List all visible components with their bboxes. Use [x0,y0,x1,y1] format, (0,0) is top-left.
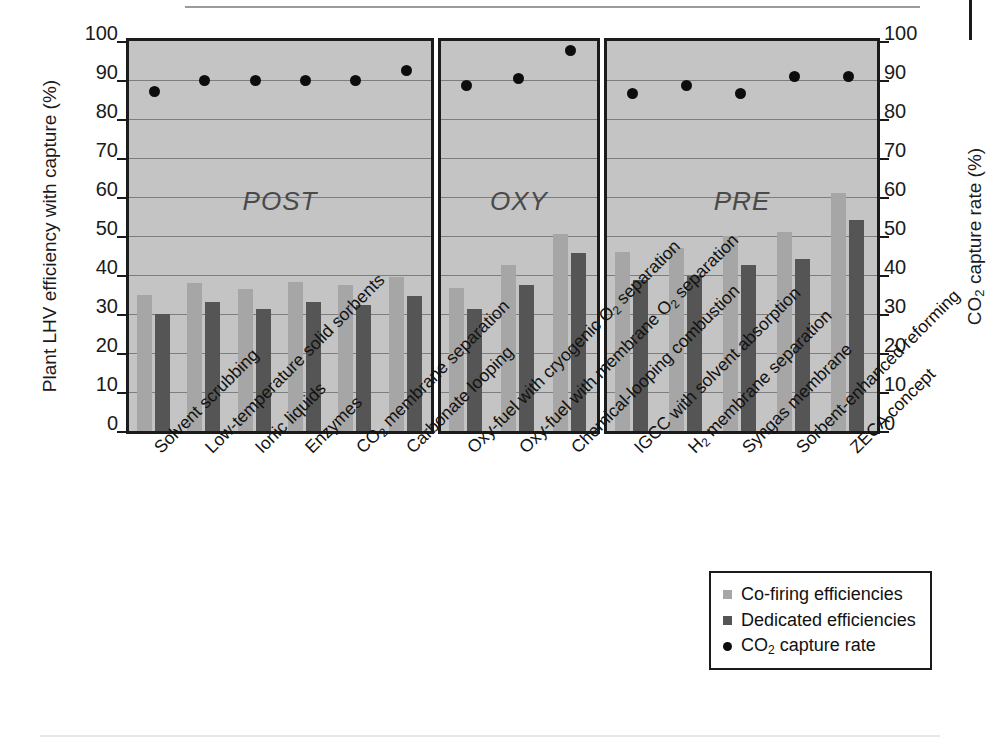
legend-item-label: Co-firing efficiencies [741,584,903,605]
capture-rate-dot[interactable] [461,80,472,91]
y-tick-label-l-60: 60 [72,179,118,199]
y-tickmark-l-20 [117,353,126,355]
y-tickmark-r-60 [880,197,889,199]
y-tickmark-r-10 [880,392,889,394]
legend-item-label: Dedicated efficiencies [741,610,916,631]
capture-rate-dot[interactable] [513,73,524,84]
bar-group[interactable] [333,41,383,431]
legend-item-label: CO2 capture rate [741,635,876,657]
bar-dedicated[interactable] [155,314,170,431]
legend-label-pre: CO [741,635,768,655]
capture-rate-dot[interactable] [250,75,261,86]
y-tick-label-r-50: 50 [884,218,930,238]
y-tick-label-r-60: 60 [884,179,930,199]
bar-dedicated[interactable] [633,280,648,431]
y-axis-right-title: CO2 capture rate (%) [964,37,987,437]
bar-cofiring[interactable] [137,295,152,432]
y-tickmark-l-30 [117,314,126,316]
y-tickmark-l-70 [117,158,126,160]
y-tick-label-l-20: 20 [72,335,118,355]
y-tickmark-r-40 [880,275,889,277]
y-tick-label-r-100: 100 [884,23,930,43]
y-tick-label-l-0: 0 [72,413,118,433]
legend-item-0[interactable]: Co-firing efficiencies [723,581,920,607]
y-axis-left-title: Plant LHV efficiency with capture (%) [39,36,61,436]
legend-label-sub: 2 [768,643,775,657]
y-tick-label-r-40: 40 [884,257,930,277]
y-axis-right-title-post: capture rate (%) [964,148,985,290]
y-axis-right-title-sub: 2 [972,289,987,296]
scan-artifact-top [185,6,920,8]
legend-square-icon [723,616,732,625]
y-tick-label-l-40: 40 [72,257,118,277]
y-tick-label-l-100: 100 [72,23,118,43]
legend-item-2[interactable]: CO2 capture rate [723,633,920,659]
capture-rate-dot[interactable] [681,80,692,91]
y-axis-right-title-pre: CO [964,297,985,326]
capture-rate-dot[interactable] [735,88,746,99]
y-tick-label-r-90: 90 [884,62,930,82]
legend: Co-firing efficienciesDedicated efficien… [709,571,932,670]
legend-square-icon [723,590,732,599]
scan-artifact-bottom [40,735,940,737]
capture-rate-dot[interactable] [565,45,576,56]
bar-group[interactable] [132,41,182,431]
y-tick-label-l-30: 30 [72,296,118,316]
y-tickmark-l-80 [117,119,126,121]
y-tick-label-l-70: 70 [72,140,118,160]
y-tickmark-l-0 [117,431,126,433]
capture-rate-dot[interactable] [149,86,160,97]
y-tickmark-r-70 [880,158,889,160]
capture-rate-dot[interactable] [350,75,361,86]
y-tickmark-r-100 [880,41,889,43]
y-tick-label-l-80: 80 [72,101,118,121]
y-tick-label-r-80: 80 [884,101,930,121]
panel-oxy: OXY [438,38,600,434]
y-tickmark-l-90 [117,80,126,82]
y-tickmark-r-90 [880,80,889,82]
y-tickmark-l-50 [117,236,126,238]
y-tickmark-r-80 [880,119,889,121]
capture-rate-dot[interactable] [789,71,800,82]
capture-rate-dot[interactable] [300,75,311,86]
scan-artifact-right [969,0,972,40]
capture-rate-dot[interactable] [843,71,854,82]
y-tickmark-l-60 [117,197,126,199]
y-axis-left-title-text: Plant LHV efficiency with capture (%) [39,80,60,392]
y-tickmark-l-10 [117,392,126,394]
legend-item-1[interactable]: Dedicated efficiencies [723,607,920,633]
y-tick-label-r-70: 70 [884,140,930,160]
capture-rate-dot[interactable] [627,88,638,99]
capture-rate-dot[interactable] [199,75,210,86]
y-tick-label-l-10: 10 [72,374,118,394]
y-tickmark-r-50 [880,236,889,238]
legend-dot-icon [723,642,732,651]
y-tickmark-r-30 [880,314,889,316]
bars-oxy [441,41,597,431]
y-tickmark-l-40 [117,275,126,277]
capture-rate-dot[interactable] [401,65,412,76]
legend-label-post: capture rate [775,635,876,655]
y-tickmark-l-100 [117,41,126,43]
y-tick-label-l-50: 50 [72,218,118,238]
y-tick-label-l-90: 90 [72,62,118,82]
